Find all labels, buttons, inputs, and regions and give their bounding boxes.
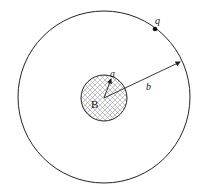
diagram-canvas: B a b q [0,0,200,195]
label-a: a [110,68,115,79]
charge-q-dot [153,27,158,32]
label-b-center: B [91,98,98,110]
label-b: b [146,81,151,92]
label-q: q [155,15,160,26]
